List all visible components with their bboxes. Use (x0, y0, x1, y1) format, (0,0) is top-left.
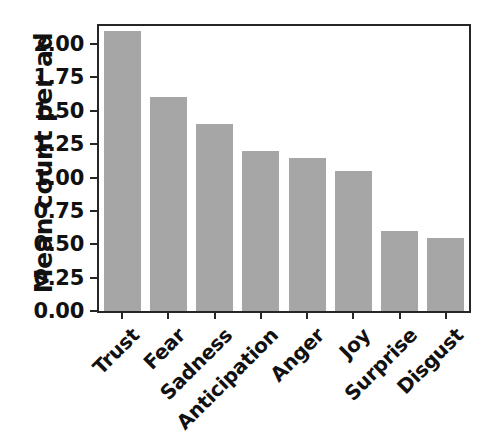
y-axis-tick-label: 1.25 (33, 132, 84, 156)
y-axis-tick: 1.00 (90, 177, 99, 179)
x-axis-tick (121, 311, 123, 319)
y-axis-tick: 2.00 (90, 43, 99, 45)
y-axis-tick-label: 0.00 (33, 299, 84, 323)
bar (150, 97, 187, 311)
y-axis-tick-label: 0.25 (33, 266, 84, 290)
bar-series (99, 26, 469, 311)
y-axis-tick: 1.75 (90, 76, 99, 78)
bar (289, 158, 326, 312)
bar (335, 171, 372, 311)
bar (196, 124, 233, 311)
y-axis-tick: 0.00 (90, 310, 99, 312)
y-axis-tick-label: 1.00 (33, 166, 84, 190)
y-axis-tick: 0.50 (90, 243, 99, 245)
x-axis-tick (260, 311, 262, 319)
x-axis-tick (306, 311, 308, 319)
y-axis-tick-label: 0.75 (33, 199, 84, 223)
y-axis-title: Mean count per ad (27, 18, 61, 308)
x-axis-tick (352, 311, 354, 319)
y-axis-tick: 1.25 (90, 143, 99, 145)
y-axis-tick-label: 1.75 (33, 65, 84, 89)
bar (381, 231, 418, 311)
plot-area: 0.000.250.500.751.001.251.501.752.00Trus… (97, 24, 471, 313)
y-axis-tick-label: 0.50 (33, 232, 84, 256)
x-axis-tick (445, 311, 447, 319)
y-axis-tick-label: 2.00 (33, 32, 84, 56)
bar (242, 151, 279, 311)
y-axis-tick: 0.75 (90, 210, 99, 212)
bar (104, 31, 141, 311)
x-axis-tick (399, 311, 401, 319)
y-axis-tick-label: 1.50 (33, 99, 84, 123)
bar-chart-figure: Mean count per ad 0.000.250.500.751.001.… (0, 0, 498, 439)
x-axis-tick (214, 311, 216, 319)
y-axis-tick: 0.25 (90, 277, 99, 279)
x-axis-tick (167, 311, 169, 319)
bar (427, 238, 464, 311)
y-axis-tick: 1.50 (90, 110, 99, 112)
